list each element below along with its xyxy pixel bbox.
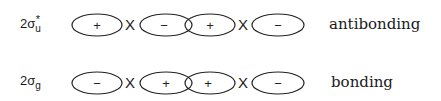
lobe-sign-1: + — [93, 18, 101, 33]
antibonding-row-lobes — [72, 14, 304, 36]
bonding-label: bonding — [331, 73, 393, 91]
orbital-label-2sigma-g: 2σg — [20, 73, 41, 88]
overlap-operator: X — [125, 74, 135, 91]
overlap-operator: X — [238, 16, 248, 33]
lobe-sign-3: + — [204, 76, 212, 91]
lobe-sign-3: + — [206, 18, 214, 33]
lobe-sign-2: + — [162, 76, 170, 91]
overlap-operator: X — [238, 74, 248, 91]
lobe-sign-2: − — [160, 18, 168, 33]
lobe-sign-4: − — [274, 76, 282, 91]
overlap-operator: X — [125, 16, 135, 33]
lobe-sign-4: − — [274, 18, 282, 33]
orbital-subscript: g — [35, 80, 41, 91]
bonding-row-lobes — [72, 72, 304, 94]
antibonding-label: antibonding — [329, 15, 420, 33]
lobe-sign-1: − — [93, 76, 101, 91]
